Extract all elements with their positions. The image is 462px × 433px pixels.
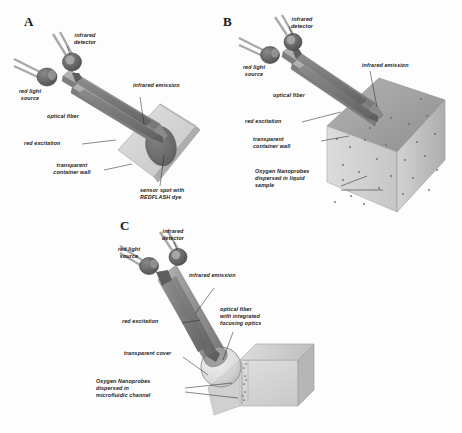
- label-red-light-source-a: red light source: [8, 88, 52, 102]
- label-infrared-emission-a: infrared emission: [133, 82, 203, 89]
- panel-a-graphic: [0, 0, 231, 216]
- red-light-source-led-a: [14, 59, 57, 86]
- label-oxygen-nanoprobes-b: Oxygen Nanoprobes dispersed in liquid sa…: [255, 168, 335, 189]
- label-optical-fiber-a: optical fiber: [47, 113, 107, 120]
- label-red-light-source-b: red light source: [233, 64, 275, 78]
- label-infrared-detector-a: infrared detector: [62, 32, 108, 46]
- label-infrared-emission-b: infrared emission: [362, 62, 432, 69]
- red-light-source-led-b: [239, 38, 280, 64]
- label-transparent-cover-c: transparent cover: [124, 350, 186, 357]
- figure-canvas: A: [0, 0, 462, 433]
- leader-wall-a: [104, 164, 132, 170]
- leader-red-excitation-a: [82, 140, 116, 144]
- label-optical-fiber-b: optical fiber: [273, 92, 331, 99]
- label-infrared-detector-b: infrared detector: [279, 16, 325, 30]
- label-red-excitation-c: red excitation: [122, 318, 182, 325]
- label-transparent-container-wall-a: transparent container wall: [40, 162, 104, 176]
- label-sensor-spot-a: sensor spot with REDFLASH dye: [140, 187, 212, 201]
- label-red-light-source-c: red light source: [108, 246, 150, 260]
- panel-c: C: [90, 210, 370, 433]
- light-path-arrows-b: [292, 49, 378, 122]
- label-oxygen-nanoprobes-c: Oxygen Nanoprobes dispersed in microflui…: [96, 378, 188, 399]
- label-red-excitation-a: red excitation: [24, 140, 84, 147]
- label-optical-fiber-focusing-c: optical fiber with integrated focusing o…: [220, 306, 288, 327]
- label-red-excitation-b: red excitation: [245, 118, 303, 125]
- label-infrared-emission-c: infrared emission: [189, 272, 261, 279]
- panel-b: B: [231, 0, 462, 216]
- label-infrared-detector-c: infrared detector: [150, 228, 196, 242]
- panel-a: A: [0, 0, 231, 216]
- leader-ir-emission-c: [195, 288, 214, 314]
- light-path-arrows-c: [156, 270, 220, 362]
- label-transparent-container-wall-b: transparent container wall: [253, 136, 317, 150]
